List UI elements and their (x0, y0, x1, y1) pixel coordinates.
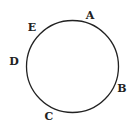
point-label-e: E (28, 21, 36, 34)
point-label-b: B (117, 82, 126, 95)
point-label-c: C (45, 110, 54, 123)
circle (27, 21, 119, 113)
circle-diagram: A B C D E (0, 0, 133, 126)
point-label-a: A (85, 9, 95, 22)
point-label-d: D (9, 55, 19, 68)
